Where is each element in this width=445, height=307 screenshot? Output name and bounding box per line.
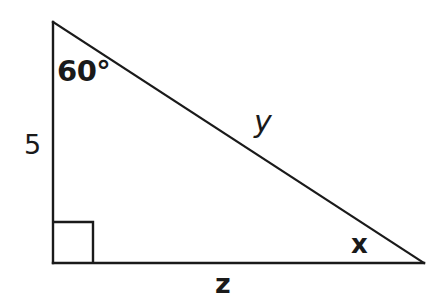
side-label-hypotenuse: y <box>254 107 272 137</box>
angle-label-60-degrees: 60° <box>57 57 110 86</box>
geometry-diagram-canvas: 60° 5 y z x <box>0 0 445 307</box>
side-label-vertical-leg: 5 <box>24 131 41 158</box>
right-angle-marker-icon <box>53 222 93 262</box>
triangle-figure <box>0 0 445 307</box>
side-label-base: z <box>215 270 231 297</box>
angle-label-x: x <box>351 231 368 257</box>
